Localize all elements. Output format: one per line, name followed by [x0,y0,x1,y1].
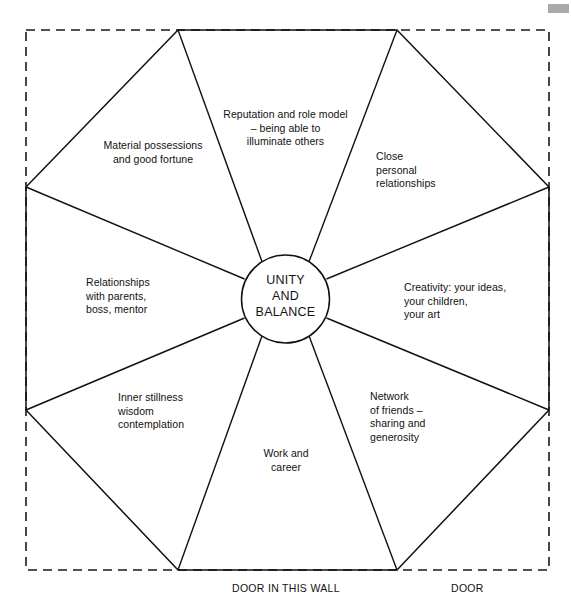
wall-label-door: DOOR [451,582,484,595]
center-label: UNITY AND BALANCE [226,272,346,320]
spoke-right-top-vertex [327,187,550,279]
segment-label-left: Relationships with parents, boss, mentor [86,276,206,317]
segment-label-top-right: Close personal relationships [376,150,496,191]
spoke-left-top-vertex [26,187,245,279]
wall-label-door-in-this-wall: DOOR IN THIS WALL [232,582,340,595]
segment-label-right: Creativity: your ideas, your children, y… [404,281,534,322]
segment-label-bottom-right: Network of friends – sharing and generos… [370,390,490,444]
segment-label-bottom-left: Inner stillness wisdom contemplation [118,391,238,432]
segment-label-top-left: Material possessions and good fortune [82,139,224,166]
segment-label-top: Reputation and role model – being able t… [206,108,366,149]
segment-label-bottom: Work and career [240,447,332,474]
bagua-diagram: UNITY AND BALANCE Reputation and role mo… [0,0,571,611]
